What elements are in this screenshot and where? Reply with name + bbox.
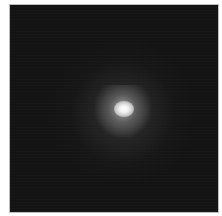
astronomical-image [9, 4, 219, 213]
bright-core [114, 101, 134, 117]
